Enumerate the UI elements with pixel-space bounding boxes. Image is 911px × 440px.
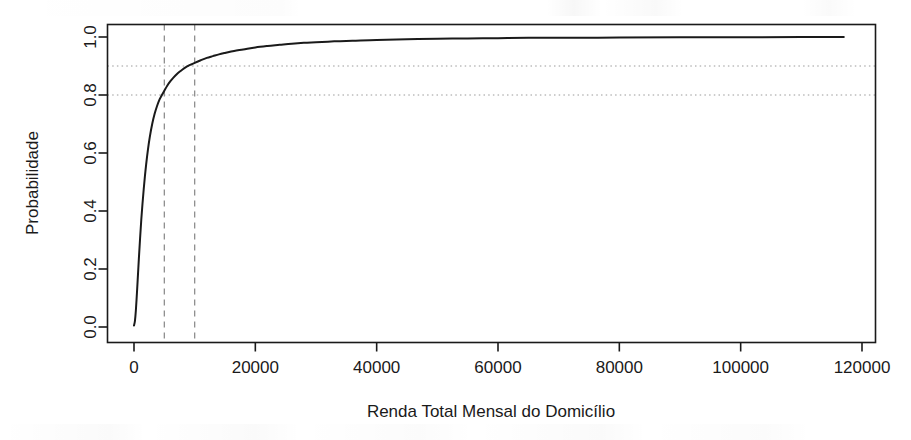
- y-tick-label-0: 0.0: [81, 315, 100, 339]
- x-tick-label-6: 120000: [834, 358, 891, 377]
- data-series-line-0: [134, 37, 844, 326]
- figure-canvas: 0.00.20.40.60.81.0 020000400006000080000…: [0, 0, 911, 440]
- x-tick-label-2: 40000: [353, 358, 400, 377]
- x-tick-label-4: 80000: [596, 358, 643, 377]
- x-tick-label-5: 100000: [712, 358, 769, 377]
- x-tick-label-0: 0: [129, 358, 138, 377]
- y-axis: 0.00.20.40.60.81.0: [81, 25, 108, 339]
- x-tick-label-1: 20000: [232, 358, 279, 377]
- x-tick-label-3: 60000: [474, 358, 521, 377]
- data-series-layer: [134, 37, 844, 326]
- x-axis: 020000400006000080000100000120000: [129, 343, 890, 377]
- y-tick-label-2: 0.4: [81, 199, 100, 223]
- y-tick-label-4: 0.8: [81, 83, 100, 107]
- cdf-chart: 0.00.20.40.60.81.0 020000400006000080000…: [0, 0, 911, 440]
- y-tick-label-5: 1.0: [81, 25, 100, 49]
- y-tick-label-3: 0.6: [81, 141, 100, 165]
- x-axis-title: Renda Total Mensal do Domicílio: [367, 402, 615, 421]
- plot-frame: [108, 25, 876, 343]
- reference-lines-layer: [108, 25, 876, 343]
- y-axis-title: Probabilidade: [23, 131, 42, 235]
- y-tick-label-1: 0.2: [81, 257, 100, 281]
